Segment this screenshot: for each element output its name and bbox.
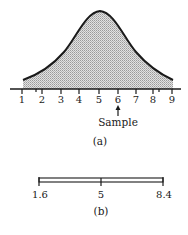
- caption-b: (b): [94, 205, 109, 217]
- panel-a: 1 2 3 4 5 6 7 8 9 Sample (a): [10, 11, 181, 147]
- tick-label: 5: [96, 94, 102, 105]
- tick-label: 2: [39, 94, 45, 105]
- tick-label: 9: [169, 94, 175, 105]
- distribution-area: [23, 11, 173, 89]
- tick-label: 4: [76, 94, 82, 105]
- tick-label: 7: [133, 94, 139, 105]
- sample-annotation: Sample: [98, 116, 138, 128]
- interval-lower-label: 1.6: [32, 189, 48, 200]
- interval-upper-label: 8.4: [156, 189, 172, 200]
- tick-label: 6: [115, 94, 121, 105]
- x-tick-labels: 1 2 3 4 5 6 7 8 9: [19, 94, 175, 105]
- interval-center-label: 5: [98, 189, 104, 200]
- caption-a: (a): [93, 135, 107, 147]
- tick-label: 3: [58, 94, 64, 105]
- tick-label: 8: [150, 94, 156, 105]
- panel-b: 1.6 5 8.4 (b): [32, 177, 172, 217]
- figure: 1 2 3 4 5 6 7 8 9 Sample (a) 1.6 5 8.4 (…: [0, 0, 188, 235]
- sample-arrow-icon: [116, 105, 121, 116]
- tick-label: 1: [19, 94, 25, 105]
